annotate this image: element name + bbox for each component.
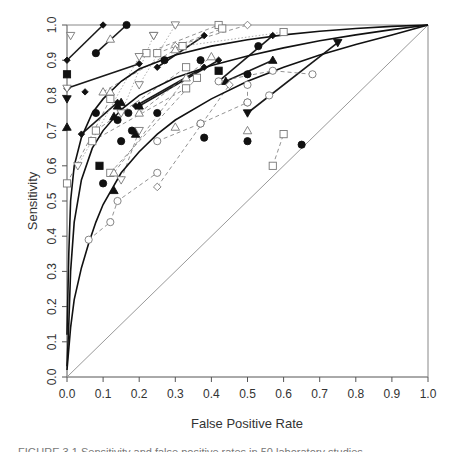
square-open-marker: [179, 43, 186, 50]
triangle-down-filled-marker: [63, 96, 71, 103]
circle-filled-marker: [244, 71, 251, 78]
circle-filled-marker: [92, 50, 99, 57]
circle-open-marker: [266, 92, 273, 99]
study-line: [89, 173, 158, 240]
square-open-marker: [280, 131, 287, 138]
study-line: [136, 67, 205, 106]
y-tick-label: 0.8: [45, 87, 59, 104]
triangle-open-marker: [207, 52, 215, 59]
triangle-down-open-marker: [135, 54, 143, 61]
triangle-down-filled-marker: [243, 110, 251, 117]
triangle-down-open-marker: [117, 177, 125, 184]
circle-filled-marker: [92, 109, 99, 116]
y-axis-title: Sensitivity: [25, 171, 40, 230]
y-tick-label: 0.5: [45, 192, 59, 209]
triangle-open-marker: [106, 35, 114, 42]
circle-open-marker: [215, 78, 222, 85]
circle-filled-marker: [125, 109, 132, 116]
circle-open-marker: [154, 169, 161, 176]
circle-filled-marker: [161, 57, 168, 64]
square-open-marker: [92, 127, 99, 134]
circle-open-marker: [197, 120, 204, 127]
circle-filled-marker: [244, 138, 251, 145]
x-tick-label: 0.5: [239, 387, 256, 401]
x-tick-label: 0.6: [275, 387, 292, 401]
circle-filled-marker: [197, 57, 204, 64]
triangle-filled-marker: [63, 123, 71, 130]
study-line: [273, 134, 284, 166]
circle-filled-marker: [298, 141, 305, 148]
circle-open-marker: [244, 99, 251, 106]
square-filled-marker: [96, 162, 103, 169]
x-tick-label: 1.0: [420, 387, 437, 401]
triangle-down-open-marker: [66, 32, 74, 39]
circle-filled-marker: [255, 43, 262, 50]
square-open-marker: [280, 28, 287, 35]
square-filled-marker: [215, 67, 222, 74]
roc-chart: 0.00.10.20.30.40.50.60.70.80.91.0 0.00.1…: [0, 0, 454, 452]
triangle-down-open-marker: [171, 22, 179, 29]
x-tick-label: 0.4: [203, 387, 220, 401]
figure-caption: FIGURE 3.1 Sensitivity and false positiv…: [18, 445, 448, 452]
circle-open-marker: [107, 219, 114, 226]
square-filled-marker: [63, 71, 70, 78]
circle-open-marker: [309, 71, 316, 78]
circle-filled-marker: [201, 134, 208, 141]
study-line: [157, 29, 222, 54]
x-tick-label: 0.1: [95, 387, 112, 401]
circle-open-marker: [85, 236, 92, 243]
square-open-marker: [154, 50, 161, 57]
y-tick-label: 0.3: [45, 263, 59, 280]
y-tick-label: 0.1: [45, 333, 59, 350]
circle-filled-marker: [118, 138, 125, 145]
diamond-open-marker: [244, 21, 252, 29]
triangle-down-open-marker: [135, 82, 143, 89]
x-axis-title: False Positive Rate: [191, 416, 303, 431]
square-open-marker: [89, 138, 96, 145]
circle-filled-marker: [100, 180, 107, 187]
circle-open-marker: [244, 81, 251, 88]
x-tick-label: 0.2: [131, 387, 148, 401]
x-tick-label: 0.8: [347, 387, 364, 401]
square-open-marker: [183, 85, 190, 92]
diamond-open-marker: [153, 183, 161, 191]
circle-filled-marker: [123, 21, 130, 28]
square-open-marker: [107, 95, 114, 102]
square-open-marker: [219, 25, 226, 32]
circle-open-marker: [269, 67, 276, 74]
x-axis-ticks: 0.00.10.20.30.40.50.60.70.80.91.0: [59, 377, 437, 401]
y-tick-label: 1.0: [45, 16, 59, 33]
diamond-filled-marker: [82, 89, 88, 95]
circle-filled-marker: [154, 109, 161, 116]
y-tick-label: 0.2: [45, 298, 59, 315]
circle-open-marker: [154, 138, 161, 145]
circle-open-marker: [114, 197, 121, 204]
y-tick-label: 0.7: [45, 122, 59, 139]
square-open-marker: [269, 162, 276, 169]
y-tick-label: 0.4: [45, 228, 59, 245]
triangle-down-open-marker: [149, 32, 157, 39]
y-tick-label: 0.9: [45, 52, 59, 69]
triangle-filled-marker: [269, 56, 277, 63]
triangle-open-marker: [243, 126, 251, 133]
triangle-open-marker: [135, 109, 143, 116]
x-tick-label: 0.9: [384, 387, 401, 401]
square-open-marker: [183, 64, 190, 71]
study-markers: [63, 21, 342, 243]
triangle-open-marker: [171, 123, 179, 130]
y-tick-label: 0.6: [45, 157, 59, 174]
y-tick-label: 0.0: [45, 368, 59, 385]
triangle-open-marker: [99, 88, 107, 95]
study-line: [157, 85, 229, 187]
x-tick-label: 0.3: [167, 387, 184, 401]
x-tick-label: 0.7: [311, 387, 328, 401]
square-open-marker: [193, 74, 200, 81]
square-open-marker: [63, 180, 70, 187]
x-tick-label: 0.0: [59, 387, 76, 401]
